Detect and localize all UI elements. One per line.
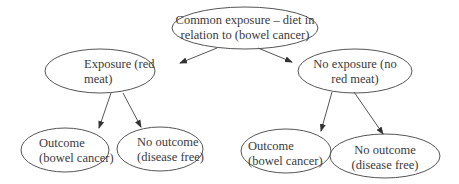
node-noexp-no-outcome-label: No outcome (disease free) bbox=[345, 143, 425, 173]
edge-root-no-exposure bbox=[258, 48, 292, 62]
edge-no-exposure-outcome bbox=[321, 92, 332, 131]
edge-exposure-outcome bbox=[99, 93, 111, 128]
node-exposure-label: Exposure (red meat) bbox=[84, 57, 164, 87]
node-exp-no-outcome-label: No outcome (disease free) bbox=[137, 135, 217, 165]
edge-exposure-no-outcome bbox=[123, 93, 141, 127]
edge-root-exposure bbox=[180, 48, 217, 63]
node-exp-outcome-label: Outcome (bowel cancer) bbox=[39, 136, 129, 166]
node-root-label: Common exposure – diet in relation to (b… bbox=[172, 13, 318, 43]
node-noexp-outcome-label: Outcome (bowel cancer) bbox=[248, 139, 338, 169]
edge-no-exposure-no-outcome bbox=[354, 92, 383, 134]
node-no-exposure-label: No exposure (no red meat) bbox=[300, 57, 410, 87]
